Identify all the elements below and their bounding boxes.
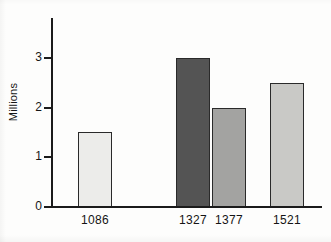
bar-1086 [78, 132, 112, 207]
y-tick-mark-3 [44, 57, 52, 59]
y-tick-mark-2 [44, 107, 52, 109]
y-tick-mark-1 [44, 156, 52, 158]
y-tick-mark-0 [44, 206, 52, 208]
x-axis-label-1377: 1377 [202, 213, 256, 227]
x-axis-label-1521: 1521 [260, 213, 314, 227]
bar-1521 [270, 83, 304, 207]
x-axis-label-1086: 1086 [68, 213, 122, 227]
bar-1377 [212, 108, 246, 207]
y-axis-line [51, 18, 53, 208]
x-axis-line [51, 206, 322, 208]
bar-chart-figure: Millions 0 1 2 3 1086132713771521 [0, 0, 331, 242]
bar-1327 [176, 58, 210, 207]
